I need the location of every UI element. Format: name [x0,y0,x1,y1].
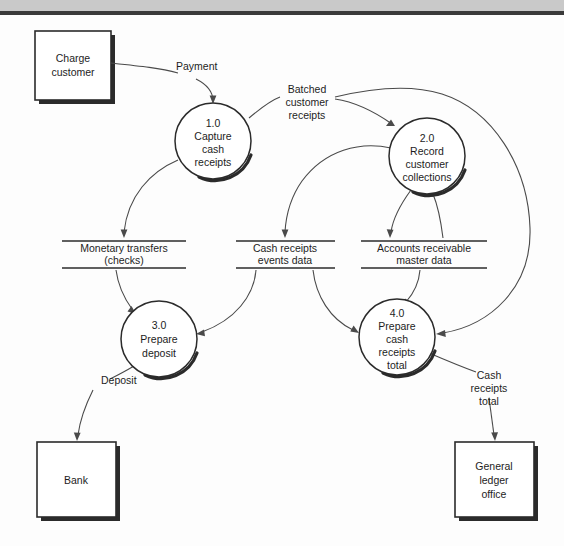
entity-general-ledger-office-label-line-1: General [475,460,512,472]
process-1-number: 1.0 [206,117,221,129]
data-store-monetary-transfers-label-line-2: (checks) [104,254,144,266]
process-3-label-line-2: deposit [142,347,176,359]
process-4-prepare-cash-receipts-total[interactable]: 4.0 Prepare cash receipts total [359,299,435,377]
data-store-accounts-receivable-master-data-label-line-2: master data [396,254,452,266]
flow-label-batched-line-2: customer [285,96,329,108]
process-1-label-line-2: cash [202,143,224,155]
process-3-label-line-1: Prepare [140,333,178,345]
entity-general-ledger-office-label-line-3: office [482,488,507,500]
entity-charge-customer-label-line-1: Charge [56,52,91,64]
flow-monetary-transfers-to-prepare-deposit [116,270,136,314]
flow-label-payment: Payment [176,60,218,72]
flow-label-crt-line-3: total [479,395,499,407]
flow-record-to-cash-receipts-events [282,146,391,238]
process-3-number: 3.0 [152,319,167,331]
process-4-label-line-2: cash [386,333,408,345]
process-2-label-line-3: collections [402,171,451,183]
flow-label-batched-line-3: receipts [289,109,326,121]
flow-label-batched-line-1: Batched [288,83,327,95]
data-flow-diagram-canvas: Charge customer Bank General ledger offi… [0,0,564,546]
process-1-capture-cash-receipts[interactable]: 1.0 Capture cash receipts [175,103,251,181]
process-3-prepare-deposit[interactable]: 3.0 Prepare deposit [121,301,197,379]
flow-label-deposit-text: Deposit [101,374,137,386]
process-4-number: 4.0 [390,307,405,319]
process-4-label-line-3: receipts [379,346,416,358]
flow-label-crt-line-1: Cash [477,369,502,381]
flow-label-batched-customer-receipts: Batched customer receipts [285,83,329,121]
flow-label-payment-text: Payment [176,60,218,72]
entity-charge-customer[interactable]: Charge customer [35,31,115,104]
flow-cash-receipts-events-to-prepare-total [313,270,359,333]
process-1-label-line-3: receipts [195,156,232,168]
data-store-accounts-receivable-master-data-label-line-1: Accounts receivable [377,242,471,254]
flow-record-to-accounts-receivable [387,190,411,238]
entity-charge-customer-label-line-2: customer [51,66,95,78]
entity-general-ledger-office[interactable]: General ledger office [455,442,538,521]
process-4-label-line-1: Prepare [378,320,416,332]
flow-cash-receipts-events-to-prepare-deposit [196,270,256,336]
process-1-label-line-1: Capture [194,130,232,142]
entity-bank[interactable]: Bank [37,442,120,521]
data-store-cash-receipts-events-data-label-line-2: events data [258,254,312,266]
flow-label-deposit: Deposit [101,374,137,386]
process-4-label-line-4: total [387,359,407,371]
flow-label-crt-line-2: receipts [471,382,508,394]
entity-bank-label: Bank [64,474,89,486]
entity-general-ledger-office-label-line-2: ledger [479,474,509,486]
data-store-monetary-transfers-label-line-1: Monetary transfers [80,242,168,254]
data-store-monetary-transfers[interactable]: Monetary transfers (checks) [62,241,186,268]
process-2-number: 2.0 [420,132,435,144]
data-store-cash-receipts-events-data[interactable]: Cash receipts events data [236,241,335,268]
flow-label-cash-receipts-total: Cash receipts total [471,369,508,407]
process-2-record-customer-collections[interactable]: 2.0 Record customer collections [389,118,465,196]
process-2-label-line-2: customer [405,158,449,170]
process-2-label-line-1: Record [410,145,444,157]
data-store-cash-receipts-events-data-label-line-1: Cash receipts [253,242,317,254]
flow-capture-to-monetary-transfers [121,160,178,238]
diagram-page: Charge customer Bank General ledger offi… [0,0,564,546]
data-store-accounts-receivable-master-data[interactable]: Accounts receivable master data [361,241,487,268]
